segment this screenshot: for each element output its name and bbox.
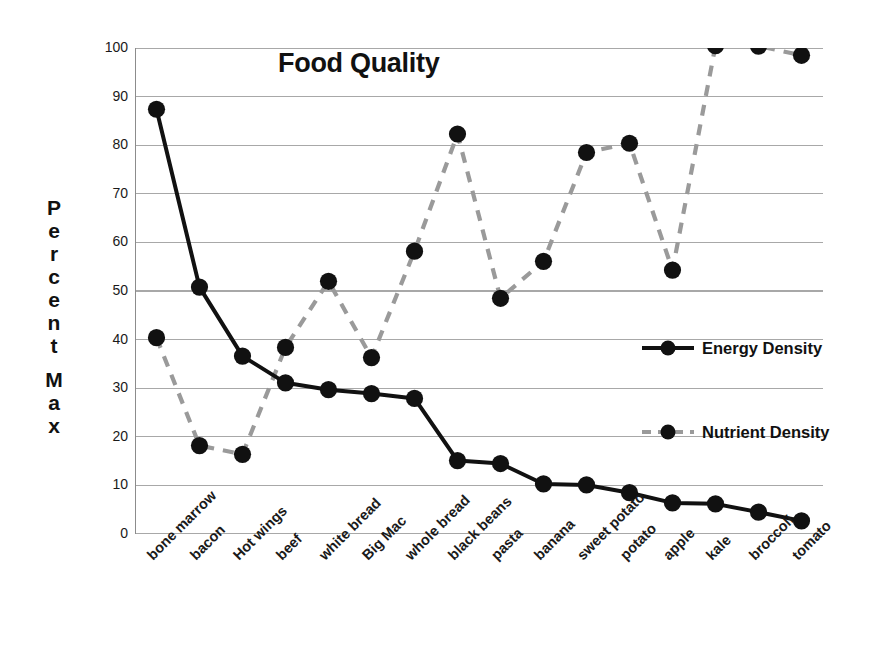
x-axis-tick-label: beef	[272, 531, 304, 563]
x-axis-tick-labels: bone marrowbaconHot wingsbeefwhite bread…	[0, 0, 883, 664]
x-axis-tick-label: pasta	[487, 525, 525, 563]
x-axis-tick-label: kale	[702, 532, 733, 563]
food-quality-chart: PercentMax 1009080706050403020100 Food Q…	[0, 0, 883, 664]
x-axis-tick-label: broccoli	[745, 512, 796, 563]
x-axis-tick-label: banana	[530, 516, 577, 563]
x-axis-tick-label: bacon	[186, 521, 228, 563]
x-axis-tick-label: apple	[659, 525, 697, 563]
x-axis-tick-label: potato	[616, 520, 659, 563]
